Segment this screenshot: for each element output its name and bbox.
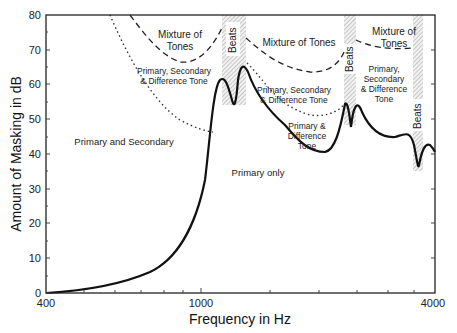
svg-text:Tones: Tones: [381, 38, 408, 49]
svg-text:Primary, Secondary: Primary, Secondary: [137, 66, 212, 76]
svg-text:Tone: Tone: [298, 141, 317, 151]
svg-text:& Difference Tone: & Difference Tone: [260, 95, 328, 105]
svg-text:1000: 1000: [189, 297, 213, 309]
x-axis-title: Frequency in Hz: [189, 311, 291, 327]
svg-text:& Difference Tone: & Difference Tone: [140, 76, 208, 86]
svg-text:Mixture of: Mixture of: [372, 26, 416, 37]
beats-label-1: Beats: [227, 27, 238, 53]
svg-text:Tones: Tones: [167, 41, 194, 52]
svg-text:80: 80: [29, 9, 41, 21]
svg-text:Primary and Secondary: Primary and Secondary: [74, 136, 174, 147]
svg-text:Tone: Tone: [375, 94, 394, 104]
svg-text:4000: 4000: [421, 297, 445, 309]
svg-text:Mixture of Tones: Mixture of Tones: [262, 37, 335, 48]
beats-label-3: Beats: [412, 103, 423, 129]
svg-text:70: 70: [29, 44, 41, 56]
svg-text:30: 30: [29, 183, 41, 195]
svg-text:Mixture of: Mixture of: [158, 29, 202, 40]
svg-text:Difference: Difference: [288, 131, 327, 141]
svg-text:20: 20: [29, 217, 41, 229]
y-tick-labels: 0 10 20 30 40 50 60 70 80: [29, 9, 41, 299]
y-axis-title: Amount of Masking in dB: [8, 76, 24, 232]
svg-text:& Difference: & Difference: [361, 84, 408, 94]
svg-text:Secondary: Secondary: [364, 74, 405, 84]
svg-text:Primary &: Primary &: [288, 121, 326, 131]
svg-text:40: 40: [29, 148, 41, 160]
svg-text:50: 50: [29, 113, 41, 125]
svg-text:60: 60: [29, 78, 41, 90]
svg-text:400: 400: [37, 297, 55, 309]
svg-text:Primary,: Primary,: [368, 64, 399, 74]
svg-text:10: 10: [29, 252, 41, 264]
svg-text:Primary only: Primary only: [232, 167, 285, 178]
x-tick-labels: 400 1000 4000: [37, 297, 445, 309]
masking-chart: Beats Beats Beats 0 10: [0, 0, 457, 333]
svg-text:Primary, Secondary: Primary, Secondary: [257, 85, 332, 95]
x-ticks: [84, 288, 414, 293]
beats-label-2: Beats: [344, 46, 355, 72]
